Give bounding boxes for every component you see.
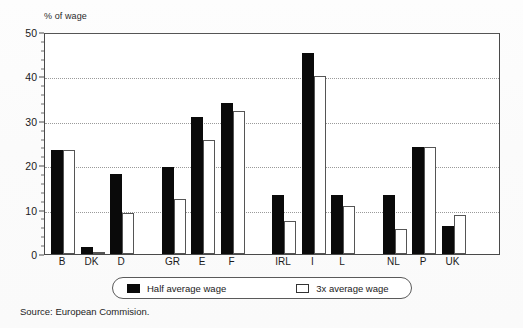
bar-group-d <box>110 34 134 254</box>
legend-item-1: Half average wage <box>127 283 226 294</box>
bar-group-irl <box>272 34 296 254</box>
legend-label-2: 3x average wage <box>316 283 388 294</box>
bar-chart-figure: % of wage 01020304050 BDKDGREFIRLILNLPUK… <box>0 0 523 328</box>
x-tick-label-dk: DK <box>85 256 99 267</box>
bar-e-series1 <box>191 117 203 254</box>
x-tick-label-i: I <box>311 256 314 267</box>
x-tick-label-uk: UK <box>446 256 460 267</box>
chart-legend: Half average wage3x average wage <box>112 277 412 299</box>
bar-d-series2 <box>122 213 134 254</box>
bar-uk-series2 <box>454 215 466 254</box>
bar-irl-series2 <box>284 221 296 254</box>
legend-label-1: Half average wage <box>147 283 226 294</box>
x-tick-label-gr: GR <box>165 256 180 267</box>
bar-p-series2 <box>424 147 436 254</box>
y-axis-tick-group: 01020304050 <box>0 33 44 255</box>
y-axis-label: % of wage <box>44 11 87 21</box>
bar-series-layer <box>45 34 499 254</box>
x-tick-label-irl: IRL <box>275 256 291 267</box>
x-tick-label-p: P <box>420 256 427 267</box>
bar-i-series1 <box>302 53 314 254</box>
bar-group-p <box>412 34 436 254</box>
bar-d-series1 <box>110 174 122 254</box>
bar-b-series1 <box>51 150 63 254</box>
bar-group-nl <box>383 34 407 254</box>
y-tick-label-30: 30 <box>25 116 37 128</box>
bar-group-gr <box>162 34 186 254</box>
bar-f-series1 <box>221 103 233 254</box>
x-tick-label-f: F <box>228 256 234 267</box>
y-tick-label-0: 0 <box>31 249 37 261</box>
x-tick-label-e: E <box>199 256 206 267</box>
bar-e-series2 <box>203 140 215 254</box>
bar-nl-series2 <box>395 229 407 254</box>
bar-i-series2 <box>314 76 326 254</box>
bar-gr-series2 <box>174 199 186 254</box>
bar-irl-series1 <box>272 195 284 254</box>
bar-uk-series1 <box>442 226 454 254</box>
bar-group-e <box>191 34 215 254</box>
bar-p-series1 <box>412 147 424 254</box>
bar-group-uk <box>442 34 466 254</box>
y-tick-label-50: 50 <box>25 27 37 39</box>
x-axis-tick-group: BDKDGREFIRLILNLPUK <box>44 256 500 272</box>
bar-group-l <box>331 34 355 254</box>
bar-group-b <box>51 34 75 254</box>
bar-dk-series2 <box>93 252 105 254</box>
bar-dk-series1 <box>81 247 93 254</box>
bar-f-series2 <box>233 111 245 254</box>
source-note: Source: European Commision. <box>20 306 149 317</box>
bar-group-i <box>302 34 326 254</box>
y-tick-label-40: 40 <box>25 71 37 83</box>
x-tick-label-l: L <box>339 256 345 267</box>
outlined-white-swatch <box>296 284 309 293</box>
bar-b-series2 <box>63 150 75 254</box>
x-tick-label-nl: NL <box>387 256 400 267</box>
legend-item-2: 3x average wage <box>296 283 388 294</box>
bar-group-f <box>221 34 245 254</box>
plot-area <box>44 33 500 255</box>
y-tick-label-20: 20 <box>25 160 37 172</box>
bar-group-dk <box>81 34 105 254</box>
bar-l-series2 <box>343 206 355 254</box>
y-tick-label-10: 10 <box>25 205 37 217</box>
x-tick-label-d: D <box>117 256 124 267</box>
bar-nl-series1 <box>383 195 395 254</box>
filled-black-swatch <box>127 284 140 293</box>
bar-l-series1 <box>331 195 343 254</box>
bar-gr-series1 <box>162 167 174 254</box>
x-tick-label-b: B <box>59 256 66 267</box>
